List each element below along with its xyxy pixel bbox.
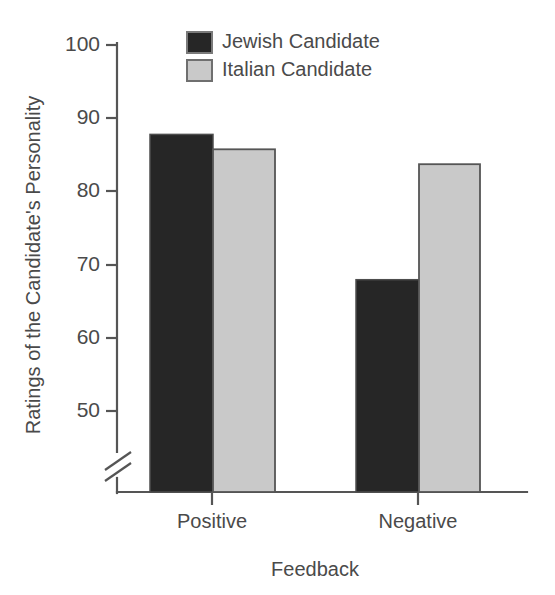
- legend-label-jewish: Jewish Candidate: [222, 30, 380, 52]
- legend-swatch-jewish: [187, 32, 212, 53]
- x-tick-label-negative: Negative: [379, 510, 458, 532]
- bar-jewish-negative: [356, 280, 419, 492]
- bar-jewish-positive: [150, 134, 213, 492]
- bar-italian-negative: [419, 164, 480, 492]
- x-tick-label-positive: Positive: [177, 510, 247, 532]
- y-tick-label-80: 80: [77, 178, 100, 201]
- y-axis-ticks: [106, 45, 117, 411]
- bar-chart-figure: 100 90 80 70 60 50 Positive Negative Fee…: [0, 0, 555, 595]
- x-axis-title: Feedback: [271, 558, 360, 580]
- bar-italian-positive: [213, 149, 275, 492]
- chart-legend: Jewish Candidate Italian Candidate: [187, 30, 380, 81]
- y-tick-label-100: 100: [65, 32, 100, 55]
- chart-canvas: 100 90 80 70 60 50 Positive Negative Fee…: [0, 0, 555, 595]
- legend-label-italian: Italian Candidate: [222, 58, 372, 80]
- y-axis-title: Ratings of the Candidate's Personality: [22, 96, 44, 434]
- y-tick-label-70: 70: [77, 252, 100, 275]
- y-tick-label-60: 60: [77, 325, 100, 348]
- axis-break-slash-upper: [105, 452, 131, 470]
- y-tick-label-50: 50: [77, 398, 100, 421]
- y-tick-label-90: 90: [77, 105, 100, 128]
- legend-swatch-italian: [187, 60, 212, 81]
